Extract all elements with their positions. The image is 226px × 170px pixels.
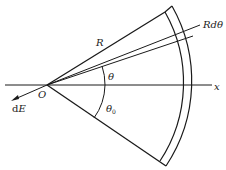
theta0-arc <box>94 85 105 118</box>
label-dE: dE <box>12 103 26 114</box>
label-theta: θ <box>108 71 114 82</box>
top-cap <box>165 6 172 12</box>
lower-radius <box>47 85 166 166</box>
charged-arc-diagram: R Rdθ θ θ0 O x dE <box>0 0 226 170</box>
theta-arc <box>102 66 105 85</box>
label-R: R <box>95 37 104 48</box>
element-line-1 <box>47 25 200 85</box>
label-Rdtheta: Rdθ <box>202 19 223 30</box>
label-O: O <box>38 89 46 100</box>
label-x: x <box>214 81 220 92</box>
upper-radius <box>47 12 165 85</box>
arrowhead-icon <box>11 95 19 101</box>
label-theta0: θ0 <box>106 103 116 115</box>
element-line-2 <box>47 36 193 85</box>
